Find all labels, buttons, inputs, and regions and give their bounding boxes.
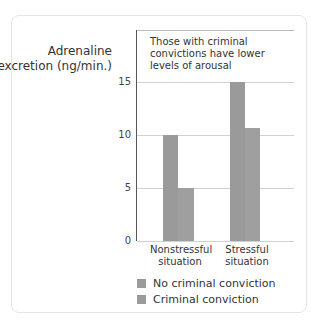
x-label-stressful: Stressful situation [217,244,277,268]
legend: No criminal conviction Criminal convicti… [137,275,276,307]
x-label-nonstressful: Nonstressful situation [150,244,210,268]
annotation: Those with criminal convictions have low… [150,36,290,72]
legend-swatch-icon [137,295,146,304]
bar-stressful-conviction [245,128,260,241]
legend-item-no-conviction: No criminal conviction [137,275,276,291]
legend-label: No criminal conviction [153,277,276,290]
x-label-stressful-line2: situation [217,256,277,268]
y-axis-label-line1: Adrenaline [0,44,112,59]
annotation-line2: convictions have lower [150,48,290,60]
x-label-stressful-line1: Stressful [217,244,277,256]
top-border [137,30,294,31]
y-tick-5: 5 [125,182,131,193]
bar-stressful-no-conviction [230,82,245,241]
gridline-5 [137,188,294,189]
legend-label: Criminal conviction [153,293,259,306]
annotation-line3: levels of arousal [150,60,290,72]
y-tick-15: 15 [118,76,131,87]
annotation-line1: Those with criminal [150,36,290,48]
x-label-nonstressful-line2: situation [150,256,210,268]
x-label-nonstressful-line1: Nonstressful [150,244,210,256]
y-axis-label: Adrenaline excretion (ng/min.) [0,44,112,74]
gridline-15 [137,82,294,83]
bar-nonstressful-no-conviction [163,135,178,241]
y-tick-0: 0 [125,235,131,246]
legend-item-conviction: Criminal conviction [137,291,276,307]
y-tick-10: 10 [118,129,131,140]
bar-nonstressful-conviction [178,188,194,241]
legend-swatch-icon [137,279,146,288]
y-axis-label-line2: excretion (ng/min.) [0,59,112,74]
gridline-10 [137,135,294,136]
gridline-0 [137,241,294,242]
